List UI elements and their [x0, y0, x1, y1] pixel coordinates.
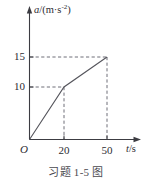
- y-tick-label-15: 15: [7, 51, 25, 62]
- y-axis-title-paren: ): [67, 4, 71, 15]
- x-axis-title-unit: /s: [129, 143, 136, 154]
- y-axis-arrow-icon: [27, 6, 32, 14]
- figure-caption: 习题 1-5 图: [0, 163, 152, 179]
- x-tick-marks: [64, 136, 107, 140]
- figure-container: 15 10 20 50 O a/(m·s-2) t/s 习题 1-5 图: [0, 0, 152, 181]
- y-tick-marks: [30, 57, 34, 87]
- y-axis-title-unit: /(m·s: [39, 4, 61, 15]
- data-series-line: [30, 57, 108, 140]
- y-axis-title: a/(m·s-2): [34, 5, 71, 16]
- x-tick-label-50: 50: [97, 145, 117, 156]
- y-tick-label-10: 10: [7, 81, 25, 92]
- x-tick-label-20: 20: [54, 145, 74, 156]
- origin-label: O: [20, 144, 28, 155]
- guide-lines: [30, 57, 107, 139]
- x-axis-arrow-icon: [134, 137, 142, 142]
- x-axis-title: t/s: [126, 144, 136, 155]
